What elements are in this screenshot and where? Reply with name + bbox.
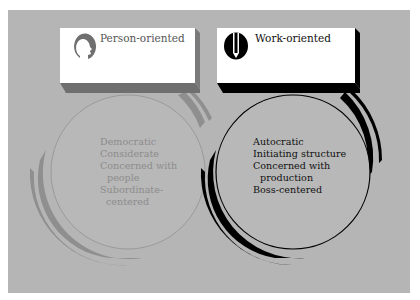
person-label: Person-oriented: [100, 32, 185, 44]
work-card-shadow: [217, 83, 360, 93]
leadership-styles-diagram: Person-oriented Democratic Considerate C…: [0, 0, 420, 300]
person-oriented-group: Person-oriented Democratic Considerate C…: [30, 28, 212, 265]
person-card-shadow: [60, 83, 200, 93]
pencil-icon: [224, 33, 248, 60]
work-label: Work-oriented: [255, 32, 331, 44]
work-oriented-group: Work-oriented Autocratic Initiating stru…: [201, 28, 382, 265]
